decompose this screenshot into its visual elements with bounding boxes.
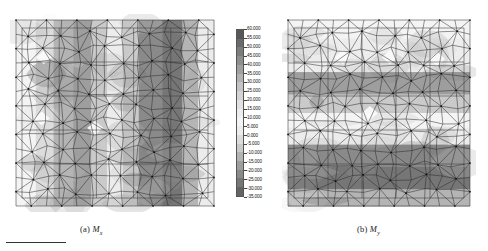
mesh-node bbox=[107, 19, 109, 21]
mesh-node bbox=[287, 191, 289, 193]
mesh-node bbox=[330, 92, 332, 94]
mesh-node bbox=[287, 105, 289, 107]
colorbar-swatch bbox=[237, 39, 243, 48]
mesh-node bbox=[171, 107, 173, 109]
colorbar-swatch bbox=[237, 152, 243, 161]
mesh-node bbox=[44, 103, 46, 105]
mesh-node bbox=[199, 109, 201, 111]
mesh-node bbox=[181, 121, 183, 123]
caption-panel-b: (b) My bbox=[357, 224, 380, 236]
colorbar-tick-label: 20.000 bbox=[247, 97, 260, 102]
mesh-node bbox=[346, 191, 348, 193]
colorbar-swatch bbox=[237, 100, 243, 109]
mesh-node bbox=[422, 91, 424, 93]
mesh-node bbox=[302, 205, 304, 207]
mesh-node bbox=[469, 76, 471, 78]
mesh-node bbox=[88, 94, 90, 96]
colorbar-tick-mark bbox=[244, 91, 247, 92]
mesh-node bbox=[425, 119, 427, 121]
mesh-node bbox=[409, 165, 411, 167]
mesh-node bbox=[397, 64, 399, 66]
mesh-node bbox=[137, 19, 139, 21]
mesh-node bbox=[61, 205, 63, 207]
mesh-node bbox=[287, 162, 289, 164]
mesh-node bbox=[149, 33, 151, 35]
mesh-node bbox=[123, 93, 125, 95]
colorbar-tick-mark bbox=[244, 56, 247, 57]
mesh-node bbox=[363, 205, 365, 207]
mesh-node bbox=[152, 205, 154, 207]
caption-b-subscript: y bbox=[377, 230, 380, 236]
colorbar-tick-mark bbox=[244, 64, 247, 65]
mesh-node bbox=[138, 45, 140, 47]
mesh-node bbox=[469, 134, 471, 136]
mesh-node bbox=[469, 19, 471, 21]
mesh-node bbox=[390, 180, 392, 182]
colorbar-tick-label: 5.000 bbox=[247, 124, 258, 129]
mesh-node bbox=[394, 35, 396, 37]
caption-panel-a: (a) Mx bbox=[80, 224, 103, 236]
mesh-node bbox=[320, 165, 322, 167]
mesh-node bbox=[15, 134, 17, 136]
mesh-node bbox=[171, 47, 173, 49]
mesh-node bbox=[91, 174, 93, 176]
colorbar-tick-label: -25.000 bbox=[247, 177, 262, 182]
mesh-node bbox=[409, 103, 411, 105]
colorbar-tick-label: 30.000 bbox=[247, 79, 260, 84]
figure-container: 60.00055.00050.00045.00040.00035.00030.0… bbox=[0, 0, 488, 251]
mesh-node bbox=[458, 123, 460, 125]
mesh-node bbox=[376, 103, 378, 105]
colorbar-tick-label: 60.000 bbox=[247, 26, 260, 31]
mesh-node bbox=[304, 62, 306, 64]
mesh-node bbox=[152, 89, 154, 91]
mesh-node bbox=[47, 188, 49, 190]
mesh-node bbox=[15, 191, 17, 193]
colorbar-swatch bbox=[237, 82, 243, 91]
mesh-node bbox=[138, 77, 140, 79]
colorbar-tick-label: -30.000 bbox=[247, 186, 262, 191]
mesh-node bbox=[377, 163, 379, 165]
colorbar-swatch bbox=[237, 161, 243, 170]
colorbar-gradient-strip bbox=[236, 29, 244, 197]
mesh-node bbox=[123, 63, 125, 65]
mesh-node bbox=[213, 148, 215, 150]
mesh-node bbox=[390, 152, 392, 154]
mesh-node bbox=[108, 158, 110, 160]
mesh-node bbox=[137, 191, 139, 193]
contour-plot-mx bbox=[10, 14, 220, 212]
mesh-node bbox=[59, 174, 61, 176]
mesh-node bbox=[89, 30, 91, 32]
mesh-node bbox=[420, 37, 422, 39]
mesh-node bbox=[360, 150, 362, 152]
colorbar-swatch bbox=[237, 117, 243, 126]
mesh-node bbox=[140, 135, 142, 137]
colorbar-tick-mark bbox=[244, 135, 247, 136]
mesh-node bbox=[441, 48, 443, 50]
mesh-node bbox=[167, 19, 169, 21]
mesh-node bbox=[104, 45, 106, 47]
colorbar-tick-mark bbox=[244, 38, 247, 39]
mesh-node bbox=[153, 118, 155, 120]
mesh-node bbox=[60, 35, 62, 37]
mesh-node bbox=[43, 162, 45, 164]
mesh-node bbox=[319, 45, 321, 47]
mesh-node bbox=[395, 118, 397, 120]
mesh-node bbox=[287, 19, 289, 21]
colorbar-swatch bbox=[237, 170, 243, 179]
mesh-node bbox=[213, 91, 215, 93]
mesh-node bbox=[185, 32, 187, 34]
colorbar-tick-label: -35.000 bbox=[247, 194, 262, 199]
mesh-node bbox=[59, 63, 61, 65]
colorbar-swatch bbox=[237, 56, 243, 65]
mesh-node bbox=[108, 193, 110, 195]
mesh-node bbox=[89, 147, 91, 149]
mesh-node bbox=[299, 90, 301, 92]
mesh-node bbox=[455, 146, 457, 148]
mesh-node bbox=[410, 130, 412, 132]
mesh-node bbox=[469, 162, 471, 164]
mesh-node bbox=[349, 51, 351, 53]
mesh-node bbox=[136, 161, 138, 163]
figure-panel-a bbox=[10, 14, 220, 212]
mesh-node bbox=[91, 205, 93, 207]
colorbar-swatch bbox=[237, 135, 243, 144]
